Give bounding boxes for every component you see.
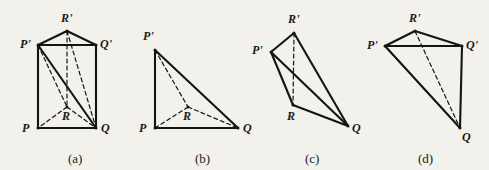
panel-a-edge-Pp-Rp (38, 31, 67, 45)
panel-a-vertex-dot-Q (95, 127, 98, 130)
panel-b-vertex-label-Pp: P' (143, 30, 154, 42)
panel-a-edge-Rp-Qp (67, 31, 96, 45)
panel-a-vertex-dot-P (37, 127, 40, 130)
panel-c-vertex-dot-R (292, 104, 295, 107)
panel-d-vertex-label-Pp: P' (367, 39, 378, 51)
panel-c-vertex-dot-Q (347, 125, 350, 128)
panel-b-degenerate-flat-tetrahedron (154, 49, 240, 130)
panel-c-edge-Pp-R (271, 52, 293, 105)
panel-b-caption: (b) (195, 152, 210, 165)
panel-d-edge-Rp-Qp (415, 31, 462, 46)
geometry-figure-panel: R'P'Q'RPQ(a)P'RPQ(b)R'P'RQ(c)R'P'Q'Q(d) (0, 0, 489, 170)
panel-d-tetrahedron-PprimeQprimeRprimeQ (384, 30, 464, 130)
panel-c-edge-Pp-Rp (271, 33, 294, 52)
panel-b-vertex-dot-Q (237, 127, 240, 130)
panel-c-edge-Pp-Q (271, 52, 348, 126)
panel-a-vertex-label-Rp: R' (61, 12, 73, 24)
panel-b-vertex-dot-Pp (154, 49, 157, 52)
panel-b-vertex-label-Q: Q (243, 122, 252, 134)
panel-d-vertex-label-Qp: Q' (466, 39, 478, 51)
panel-c-tetrahedron-PprimeRprimeRQ (270, 32, 350, 128)
panel-d-edge-Pp-Q (385, 46, 460, 128)
panel-c-vertex-dot-Pp (270, 51, 273, 54)
panel-a-vertex-dot-Rp (66, 30, 69, 33)
panel-a-vertex-label-Q: Q (101, 122, 110, 134)
panel-c-hidden-edge-Rp-R (293, 33, 294, 105)
panel-d-vertex-label-Rp: R' (409, 12, 421, 24)
panel-a-vertex-label-Pp: P' (20, 38, 31, 50)
panel-c-vertex-dot-Rp (293, 32, 296, 35)
panel-a-hidden-edge-R-Q (67, 107, 96, 128)
panel-a-hidden-edge-Pp-R (38, 45, 67, 107)
panel-b-hidden-edge-Pp-R (155, 50, 188, 107)
panel-b-vertex-dot-P (154, 127, 157, 130)
panel-a-vertex-label-Qp: Q' (100, 38, 112, 50)
panel-c-vertex-label-Q: Q (352, 122, 361, 134)
panel-d-edge-Qp-Q (460, 46, 462, 128)
panel-c-vertex-label-R: R (287, 110, 295, 122)
panel-b-hidden-edge-R-Q (188, 107, 238, 128)
panel-c-edge-Rp-Q (294, 33, 348, 126)
panel-d-edge-Pp-Rp (385, 31, 415, 46)
panel-b-vertex-label-P: P (139, 122, 147, 134)
panel-d-caption: (d) (418, 152, 433, 165)
panel-a-vertex-dot-Pp (37, 44, 40, 47)
panel-c-edge-R-Q (293, 105, 348, 126)
panel-a-vertex-label-P: P (22, 122, 30, 134)
panel-d-vertex-dot-Pp (384, 45, 387, 48)
panel-d-vertex-dot-Qp (461, 45, 464, 48)
panel-a-vertex-label-R: R (62, 110, 70, 122)
panel-d-vertex-label-Q: Q (462, 131, 471, 143)
panel-a-caption: (a) (68, 152, 82, 165)
panel-c-vertex-label-Rp: R' (288, 13, 300, 25)
figure-line-art (0, 0, 489, 170)
panel-b-vertex-label-R: R (183, 110, 191, 122)
panel-d-vertex-dot-Rp (414, 30, 417, 33)
panel-c-vertex-label-Pp: P' (252, 44, 263, 56)
panel-b-edge-Pp-Q (155, 50, 238, 128)
panel-c-caption: (c) (305, 152, 319, 165)
panel-a-vertex-dot-Qp (95, 44, 98, 47)
